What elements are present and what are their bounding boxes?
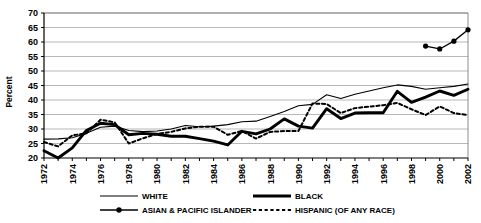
y-axis-label: Percent (4, 76, 14, 107)
legend-label: HISPANIC (OF ANY RACE) (295, 206, 395, 215)
x-tick-label: 1980 (152, 164, 162, 184)
y-tick-label: 40 (28, 95, 38, 105)
legend-label: WHITE (142, 192, 168, 201)
x-axis: 1972197419761978198019821984198619881990… (39, 158, 473, 184)
series-line-white (44, 84, 468, 139)
x-tick-label: 1978 (124, 164, 134, 184)
y-tick-label: 35 (28, 110, 38, 120)
x-tick-label: 1990 (294, 164, 304, 184)
series-marker (451, 39, 456, 44)
x-tick-label: 1984 (209, 164, 219, 184)
x-tick-label: 1976 (96, 164, 106, 184)
x-tick-label: 1992 (322, 164, 332, 184)
chart-legend: WHITEBLACKASIAN & PACIFIC ISLANDERHISPAN… (100, 192, 395, 215)
y-tick-label: 65 (28, 23, 38, 33)
y-axis-title: Percent (4, 76, 14, 107)
x-tick-label: 1988 (266, 164, 276, 184)
x-tick-label: 2002 (463, 164, 473, 184)
y-tick-label: 70 (28, 8, 38, 18)
x-tick-label: 1986 (237, 164, 247, 184)
legend-item-asian-pacific-islander: ASIAN & PACIFIC ISLANDER (100, 206, 252, 215)
y-tick-label: 25 (28, 139, 38, 149)
legend-item-white: WHITE (100, 192, 168, 201)
y-tick-label: 20 (28, 153, 38, 163)
x-tick-label: 1974 (68, 164, 78, 184)
y-tick-label: 50 (28, 66, 38, 76)
x-tick-label: 1982 (181, 164, 191, 184)
x-tick-label: 1994 (350, 164, 360, 184)
y-tick-label: 30 (28, 124, 38, 134)
y-tick-label: 45 (28, 81, 38, 91)
series-marker (423, 43, 428, 48)
series-marker (437, 46, 442, 51)
y-axis: 2025303540455055606570 (28, 8, 44, 163)
line-chart: 2025303540455055606570 19721974197619781… (0, 0, 481, 223)
x-tick-label: 1998 (407, 164, 417, 184)
series-line-asian-pacific-islander (426, 30, 468, 49)
x-tick-label: 1972 (39, 164, 49, 184)
data-series-group (44, 27, 471, 158)
series-marker (465, 27, 470, 32)
legend-label: ASIAN & PACIFIC ISLANDER (142, 206, 252, 215)
legend-item-hispanic-of-any-race: HISPANIC (OF ANY RACE) (253, 206, 395, 215)
series-line-black (44, 89, 468, 158)
x-tick-label: 2000 (435, 164, 445, 184)
legend-item-black: BLACK (253, 192, 323, 201)
y-tick-label: 55 (28, 52, 38, 62)
y-tick-label: 60 (28, 37, 38, 47)
x-tick-label: 1996 (379, 164, 389, 184)
legend-label: BLACK (295, 192, 323, 201)
legend-swatch-marker (116, 207, 121, 212)
chart-figure: 2025303540455055606570 19721974197619781… (0, 0, 481, 223)
